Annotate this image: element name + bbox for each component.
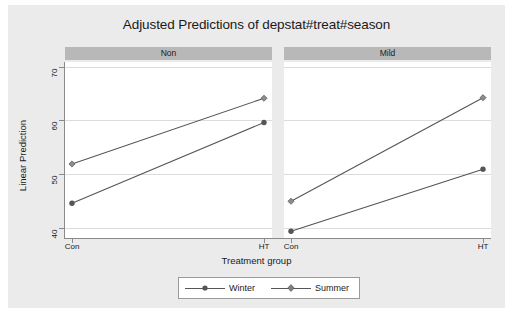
data-point-summer-ht <box>480 95 486 101</box>
data-point-winter-con <box>69 201 74 206</box>
y-tick-mark-60 <box>59 120 64 121</box>
plot-area-mild <box>284 62 491 238</box>
series-layer-mild <box>284 62 491 238</box>
chart-legend: Winter Summer <box>178 277 360 299</box>
data-point-winter-con <box>288 229 293 234</box>
plot-area-non <box>65 62 272 238</box>
data-point-winter-ht <box>480 166 485 171</box>
x-axis-title: Treatment group <box>8 255 505 266</box>
data-point-summer-con <box>288 198 294 204</box>
x-tick-label-non-con: Con <box>52 242 92 251</box>
y-tick-label-40: 40 <box>50 230 59 278</box>
series-layer-non <box>65 62 272 238</box>
y-tick-mark-40 <box>59 228 64 229</box>
legend-entry-summer[interactable]: Summer <box>271 278 349 298</box>
data-point-summer-con <box>69 161 75 167</box>
y-tick-label-50: 50 <box>50 176 59 224</box>
y-axis-line <box>64 62 65 239</box>
data-point-winter-ht <box>261 120 266 125</box>
panel-header-mild: Mild <box>284 47 491 60</box>
legend-key-winter-icon <box>185 282 225 294</box>
legend-label-summer: Summer <box>315 283 349 293</box>
graph-region: Adjusted Predictions of depstat#treat#se… <box>8 5 505 308</box>
data-point-summer-ht <box>261 95 267 101</box>
chart-screenshot: Adjusted Predictions of depstat#treat#se… <box>0 0 513 315</box>
panel-header-non: Non <box>65 47 272 60</box>
x-tick-label-mild-ht: HT <box>463 242 503 251</box>
series-line-summer <box>291 98 483 202</box>
series-line-winter <box>72 123 264 204</box>
x-tick-label-mild-con: Con <box>271 242 311 251</box>
y-tick-label-60: 60 <box>50 122 59 170</box>
x-axis-line <box>64 238 491 239</box>
legend-label-winter: Winter <box>229 283 255 293</box>
legend-key-summer-icon <box>271 282 311 294</box>
y-tick-mark-50 <box>59 174 64 175</box>
y-tick-mark-70 <box>59 67 64 68</box>
y-tick-label-70: 70 <box>50 69 59 117</box>
series-line-summer <box>72 98 264 164</box>
legend-entry-winter[interactable]: Winter <box>185 278 255 298</box>
series-line-winter <box>291 169 483 231</box>
y-axis-title: Linear Prediction <box>17 76 28 236</box>
chart-title: Adjusted Predictions of depstat#treat#se… <box>8 17 505 32</box>
